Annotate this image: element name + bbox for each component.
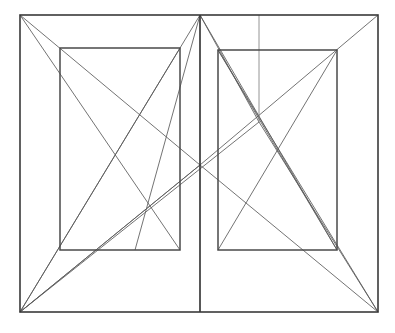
diagram-canvas: Window elevation construction diagram Te… [0, 0, 395, 333]
line-drawing-svg [0, 0, 395, 333]
